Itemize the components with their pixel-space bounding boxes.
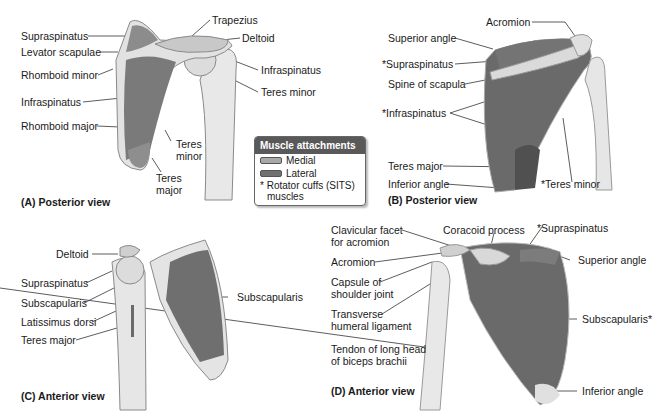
caption-a: (A) Posterior view <box>21 196 110 208</box>
label-a-levator-scapulae: Levator scapulae <box>21 46 101 58</box>
label-b-spine-of-scapula: Spine of scapula <box>388 78 466 90</box>
label-d-clavicular-facet-line1: Clavicular facet <box>331 224 403 236</box>
label-b-inferior-angle: Inferior angle <box>388 178 449 190</box>
label-d-coracoid-process: Coracoid process <box>443 224 525 236</box>
label-d-supraspinatus: *Supraspinatus <box>537 222 608 234</box>
label-d-transverse-line2: humeral ligament <box>331 320 412 332</box>
label-d-inferior-angle: Inferior angle <box>582 385 643 397</box>
legend-item-medial: Medial <box>255 154 365 167</box>
label-c-latissimus-dorsi: Latissimus dorsi <box>21 316 96 328</box>
label-a-supraspinatus: Supraspinatus <box>21 30 88 42</box>
label-d-transverse-line1: Transverse <box>331 308 383 320</box>
lateral-swatch-icon <box>260 170 282 177</box>
label-b-supraspinatus: *Supraspinatus <box>382 58 453 70</box>
label-c-subscapularis: Subscapularis <box>21 297 87 309</box>
label-a-teres-minor-line2: minor <box>176 150 202 162</box>
label-d-clavicular-facet-line2: for acromion <box>331 236 389 248</box>
caption-b: (B) Posterior view <box>388 194 477 206</box>
label-d-tendon-line2: of biceps brachii <box>331 355 407 367</box>
label-d-superior-angle: Superior angle <box>578 254 646 266</box>
label-a-deltoid: Deltoid <box>242 32 275 44</box>
label-a-rhomboid-major: Rhomboid major <box>21 120 98 132</box>
caption-c: (C) Anterior view <box>21 390 105 402</box>
label-c-subscapularis-right: Subscapularis <box>237 291 303 303</box>
label-c-deltoid: Deltoid <box>56 248 89 260</box>
label-a-teres-minor-humerus: Teres minor <box>261 86 316 98</box>
label-a-teres-major-line1: Teres <box>156 172 182 184</box>
legend-note-line1: * Rotator cuffs (SITS) <box>255 180 365 191</box>
label-d-subscapularis: Subscapularis* <box>582 313 652 325</box>
label-b-teres-major: Teres major <box>388 160 443 172</box>
label-d-capsule-line2: shoulder joint <box>331 288 393 300</box>
legend-title: Muscle attachments <box>255 137 365 154</box>
label-d-capsule-line1: Capsule of <box>331 276 381 288</box>
panel-d-art <box>420 243 569 410</box>
label-b-teres-minor: *Teres minor <box>541 178 600 190</box>
label-a-infraspinatus: Infraspinatus <box>21 96 81 108</box>
medial-swatch-icon <box>260 157 282 164</box>
panel-b-art <box>484 34 612 192</box>
legend-note-line2: muscles <box>255 191 365 202</box>
label-c-teres-major: Teres major <box>21 334 76 346</box>
label-c-supraspinatus: Supraspinatus <box>21 277 88 289</box>
label-a-teres-minor-line1: Teres <box>176 138 202 150</box>
label-b-infraspinatus: *Infraspinatus <box>382 107 446 119</box>
caption-d: (D) Anterior view <box>331 385 415 397</box>
muscle-attachments-legend: Muscle attachments Medial Lateral * Rota… <box>254 136 366 206</box>
label-d-tendon-line1: Tendon of long head <box>331 343 426 355</box>
legend-item-lateral: Lateral <box>255 167 365 180</box>
label-d-acromion: Acromion <box>331 256 375 268</box>
label-a-infraspinatus-humerus: Infraspinatus <box>261 64 321 76</box>
label-b-superior-angle: Superior angle <box>388 32 456 44</box>
label-b-acromion: Acromion <box>486 16 530 28</box>
label-a-trapezius: Trapezius <box>212 14 258 26</box>
panel-c-art <box>112 240 228 410</box>
label-a-teres-major-line2: major <box>156 184 182 196</box>
label-a-rhomboid-minor: Rhomboid minor <box>21 69 98 81</box>
